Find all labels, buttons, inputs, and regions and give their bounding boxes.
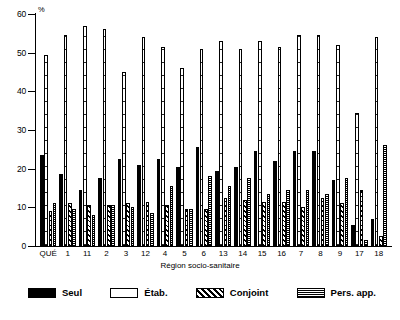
bar-etab xyxy=(44,55,48,246)
bar-conjoint xyxy=(126,203,130,246)
x-axis-label: 18 xyxy=(363,249,396,258)
bar-persapp xyxy=(111,205,115,246)
bar-group xyxy=(196,14,215,246)
bar-seul xyxy=(157,159,161,246)
bar-conjoint xyxy=(379,236,383,246)
y-axis-tick-label: 10 xyxy=(0,203,26,212)
x-axis-title: Région socio-sanitaire xyxy=(0,261,400,270)
y-axis-unit-label: % xyxy=(38,6,45,14)
bar-etab xyxy=(239,49,243,246)
y-axis-tick xyxy=(28,14,36,15)
bar-persapp xyxy=(208,176,212,246)
bar-conjoint xyxy=(146,202,150,246)
bar-seul xyxy=(312,151,316,246)
legend-item-persapp[interactable]: Pers. app. xyxy=(297,288,376,298)
bar-etab xyxy=(355,113,359,246)
y-axis-tick-label: 50 xyxy=(0,49,26,58)
bar-seul xyxy=(79,190,83,246)
bar-conjoint xyxy=(301,207,305,246)
bar-persapp xyxy=(53,203,57,246)
bar-seul xyxy=(371,219,375,246)
y-axis-tick xyxy=(28,130,36,131)
bar-seul xyxy=(196,147,200,246)
bar-conjoint xyxy=(87,205,91,246)
bar-conjoint xyxy=(360,190,364,246)
bar-conjoint xyxy=(185,209,189,246)
bar-etab xyxy=(375,37,379,246)
bar-seul xyxy=(351,225,355,246)
bar-conjoint xyxy=(321,198,325,246)
bar-persapp xyxy=(306,190,310,246)
bar-etab xyxy=(200,49,204,246)
bar-conjoint xyxy=(165,205,169,246)
bar-group xyxy=(118,14,137,246)
y-axis-tick-label: 60 xyxy=(0,10,26,19)
legend-item-etab[interactable]: Étab. xyxy=(110,288,167,298)
y-axis-tick xyxy=(28,246,36,247)
legend-label: Étab. xyxy=(144,288,167,298)
bar-etab xyxy=(219,41,223,246)
bar-etab xyxy=(180,68,184,246)
bar-persapp xyxy=(131,207,135,246)
bar-conjoint xyxy=(282,202,286,246)
y-axis-tick xyxy=(28,169,36,170)
bar-etab xyxy=(103,29,107,246)
bar-seul xyxy=(293,151,297,246)
plot-area xyxy=(36,14,392,246)
legend-item-seul[interactable]: Seul xyxy=(28,288,82,298)
y-axis-tick xyxy=(28,53,36,54)
y-axis-tick-label: 40 xyxy=(0,87,26,96)
bar-seul xyxy=(215,171,219,246)
bar-persapp xyxy=(150,213,154,246)
bar-etab xyxy=(142,37,146,246)
bar-persapp xyxy=(364,240,368,246)
x-axis-line xyxy=(28,246,392,247)
bar-seul xyxy=(332,180,336,246)
bar-conjoint xyxy=(49,211,53,246)
y-axis-tick-label: 0 xyxy=(0,242,26,251)
bar-seul xyxy=(118,159,122,246)
bar-etab xyxy=(122,72,126,246)
legend-label: Conjoint xyxy=(230,288,269,298)
legend-label: Seul xyxy=(62,288,82,298)
legend-swatch-seul-icon xyxy=(28,288,56,298)
bar-etab xyxy=(297,35,301,246)
bar-persapp xyxy=(189,209,193,246)
bar-persapp xyxy=(228,186,232,246)
y-axis-tick-label: 20 xyxy=(0,165,26,174)
legend-label: Pers. app. xyxy=(331,288,376,298)
bar-group xyxy=(79,14,98,246)
bar-group xyxy=(176,14,195,246)
bar-persapp xyxy=(345,178,349,246)
bar-persapp xyxy=(286,190,290,246)
bar-seul xyxy=(273,161,277,246)
bar-group xyxy=(137,14,156,246)
bar-seul xyxy=(234,167,238,246)
bar-seul xyxy=(59,174,63,246)
bar-group xyxy=(40,14,59,246)
bar-etab xyxy=(83,26,87,246)
bar-conjoint xyxy=(262,202,266,246)
bar-group xyxy=(234,14,253,246)
bar-etab xyxy=(258,41,262,246)
bar-group xyxy=(371,14,390,246)
legend-swatch-persapp-icon xyxy=(297,288,325,298)
bar-persapp xyxy=(92,215,96,246)
legend-item-conjoint[interactable]: Conjoint xyxy=(196,288,269,298)
bar-conjoint xyxy=(243,200,247,246)
bar-chart: % 0102030405060 QUÉ111231245613141516789… xyxy=(0,0,400,320)
bar-group xyxy=(59,14,78,246)
bar-group xyxy=(215,14,234,246)
bar-conjoint xyxy=(224,198,228,246)
bar-seul xyxy=(254,151,258,246)
bar-persapp xyxy=(247,178,251,246)
bar-group xyxy=(98,14,117,246)
bar-group xyxy=(351,14,370,246)
bar-group xyxy=(157,14,176,246)
bar-conjoint xyxy=(204,209,208,246)
bar-seul xyxy=(137,165,141,246)
bar-etab xyxy=(278,47,282,246)
chart-legend: SeulÉtab.ConjointPers. app. xyxy=(28,285,376,301)
bar-persapp xyxy=(72,209,76,246)
bar-persapp xyxy=(267,194,271,246)
